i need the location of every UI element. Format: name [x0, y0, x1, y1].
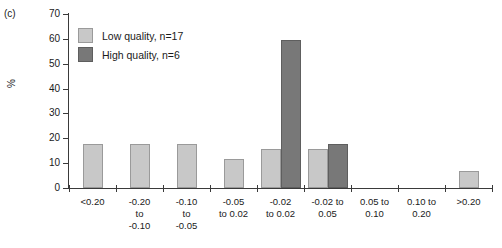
chart-figure: (c) % 010203040506070 <0.20-0.20 to -0.1… [0, 0, 502, 248]
legend-label-low-quality: Low quality, n=17 [102, 30, 183, 42]
x-axis-category-label: -0.02 to 0.02 [257, 196, 304, 220]
legend-swatch-high-quality [78, 47, 93, 62]
x-axis-category-label: -0.02 to 0.05 [304, 196, 351, 220]
bar-high-quality [328, 144, 348, 188]
bar-low-quality [261, 149, 281, 188]
y-axis-tick-label: 60 [34, 34, 60, 44]
legend-item: High quality, n=6 [78, 45, 183, 64]
legend-item: Low quality, n=17 [78, 26, 183, 45]
bar-low-quality [83, 144, 103, 188]
y-axis-tick-label: 40 [34, 84, 60, 94]
x-axis-category-label: >0.20 [445, 196, 492, 208]
y-axis-tick-label: 50 [34, 59, 60, 69]
legend-swatch-low-quality [78, 28, 93, 43]
bar-low-quality [459, 171, 479, 188]
bar-low-quality [224, 159, 244, 188]
y-axis-title: % [6, 79, 17, 88]
legend-label-high-quality: High quality, n=6 [102, 49, 180, 61]
panel-label: (c) [4, 8, 16, 19]
bar-low-quality [177, 144, 197, 188]
x-axis-category-label: 0.05 to 0.10 [351, 196, 398, 220]
y-axis-tick-label: 0 [34, 183, 60, 193]
y-axis-tick-label: 20 [34, 133, 60, 143]
x-axis-line [68, 188, 492, 189]
x-axis-category-label: -0.05 to 0.02 [210, 196, 257, 220]
y-axis-tick-label: 30 [34, 108, 60, 118]
x-axis-category-label: -0.20 to -0.10 [116, 196, 163, 232]
x-axis-tick [492, 185, 493, 192]
chart-legend: Low quality, n=17 High quality, n=6 [78, 26, 183, 64]
bar-low-quality [308, 149, 328, 188]
bar-high-quality [281, 40, 301, 188]
x-axis-category-label: <0.20 [69, 196, 116, 208]
x-axis-category-label: 0.10 to 0.20 [398, 196, 445, 220]
x-axis-category-label: -0.10 to -0.05 [163, 196, 210, 232]
y-axis-tick-label: 70 [34, 9, 60, 19]
y-axis-tick-label: 10 [34, 158, 60, 168]
bar-low-quality [130, 144, 150, 188]
